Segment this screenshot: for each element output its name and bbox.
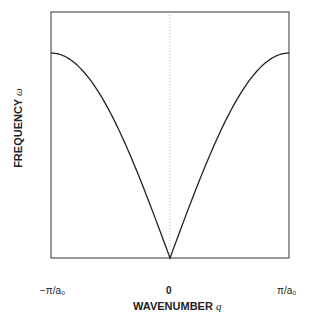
dispersion-curve xyxy=(51,53,289,258)
x-axis-label-symbol: q xyxy=(216,300,222,312)
x-tick-label-zero: 0 xyxy=(166,285,172,296)
x-axis-label: WAVENUMBER q xyxy=(133,300,221,312)
y-axis-label: FREQUENCY ω xyxy=(12,86,24,171)
x-axis-label-text: WAVENUMBER xyxy=(133,300,213,312)
y-axis-label-symbol: ω xyxy=(12,88,24,96)
chart-canvas xyxy=(0,0,311,320)
x-tick-label-max: π/a₀ xyxy=(277,285,296,296)
x-tick-label-min: −π/a₀ xyxy=(40,285,65,296)
y-axis-label-text: FREQUENCY xyxy=(12,99,24,168)
